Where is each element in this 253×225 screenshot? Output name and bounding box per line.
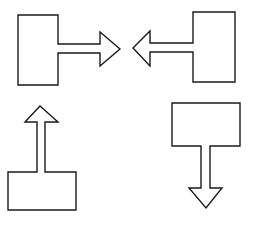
- box-with-up-arrow-icon: [8, 106, 76, 210]
- box-with-down-arrow-icon: [172, 103, 240, 208]
- box-with-left-arrow-icon: [133, 12, 235, 82]
- box-with-right-arrow-icon: [18, 15, 120, 85]
- diagram-canvas: [0, 0, 253, 225]
